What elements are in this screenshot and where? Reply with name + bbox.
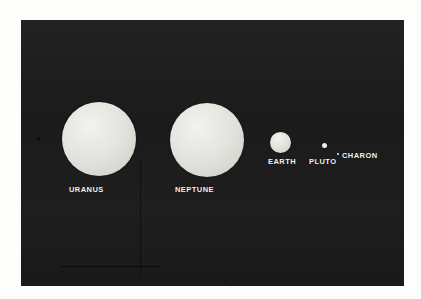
photo-plate: URANUS NEPTUNE EARTH PLUTO CHARON (21, 20, 404, 286)
planet-disc-earth (270, 132, 291, 153)
label-earth: EARTH (268, 158, 296, 166)
scan-artifact-speck (37, 137, 40, 140)
planet-dot-charon (337, 153, 339, 155)
planet-disc-neptune (170, 103, 244, 177)
scanned-page: URANUS NEPTUNE EARTH PLUTO CHARON (0, 0, 421, 299)
planet-dot-pluto (322, 143, 327, 148)
scan-artifact-vertical-line (140, 160, 141, 275)
planet-disc-uranus (62, 102, 136, 176)
label-neptune: NEPTUNE (175, 186, 214, 194)
label-charon: CHARON (342, 152, 378, 160)
label-pluto: PLUTO (309, 158, 337, 166)
label-uranus: URANUS (69, 186, 104, 194)
scan-artifact-horizontal-line (61, 266, 161, 267)
